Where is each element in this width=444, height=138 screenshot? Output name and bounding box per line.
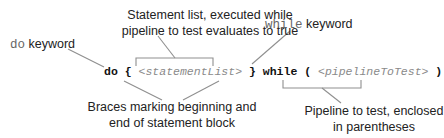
- pipeline-connector: [322, 88, 341, 103]
- while-keyword: while: [263, 65, 298, 78]
- pipeline-annotation: Pipeline to test, enclosed in parenthese…: [294, 103, 444, 135]
- while-keyword-annotation: while keyword: [265, 16, 353, 33]
- pipeline-placeholder: <pipelineToTest>: [318, 65, 428, 78]
- close-paren: ): [435, 65, 442, 78]
- pipeline-annotation-line2: in parentheses: [294, 119, 444, 135]
- braces-annotation-line1: Braces marking beginning and: [82, 99, 262, 115]
- close-brace-connector: [183, 81, 219, 100]
- while-keyword-text: keyword: [303, 17, 353, 31]
- close-brace: }: [249, 65, 256, 78]
- do-keyword: do: [104, 65, 118, 78]
- pipeline-annotation-line1: Pipeline to test, enclosed: [294, 103, 444, 119]
- statement-list-connector: [158, 36, 175, 58]
- pipeline-bracket: [283, 80, 361, 88]
- open-brace: {: [125, 65, 132, 78]
- while-keyword-code: while: [265, 18, 303, 32]
- do-keyword-code: do: [10, 38, 25, 52]
- open-brace-connector: [124, 81, 162, 100]
- braces-annotation: Braces marking beginning and end of stat…: [82, 99, 262, 131]
- do-while-syntax: do { <statementList> } while ( <pipeline…: [104, 64, 442, 80]
- do-keyword-annotation: do keyword: [10, 36, 75, 53]
- open-paren: (: [304, 65, 311, 78]
- do-keyword-text: keyword: [25, 37, 75, 51]
- statement-list-placeholder: <statementList>: [139, 65, 243, 78]
- braces-annotation-line2: end of statement block: [82, 115, 262, 131]
